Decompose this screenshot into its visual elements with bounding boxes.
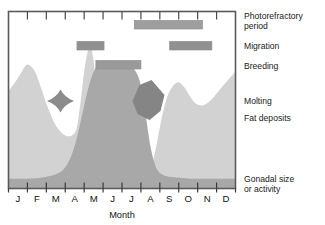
month-label-5: M (90, 193, 98, 204)
event-bar-migration-2 (170, 42, 212, 51)
month-label-2: F (34, 193, 40, 204)
month-label-4: A (72, 193, 79, 204)
month-label-10: O (184, 193, 191, 204)
month-label-9: S (166, 193, 172, 204)
month-label-8: A (147, 193, 154, 204)
month-label-1: J (16, 193, 21, 204)
legend-breeding: Breeding (244, 61, 279, 71)
event-bar-photorefractory-period (134, 21, 202, 30)
month-label-3: M (52, 193, 60, 204)
legend-photorefractory-line1: Photorefractory (244, 11, 303, 21)
legend-gonadal-line1: Gonadal size (244, 174, 294, 184)
month-label-7: J (129, 193, 134, 204)
event-bar-migration-1 (77, 42, 104, 51)
legend-gonadal-line2: or activity (244, 184, 281, 194)
chart-figure: JFMAMJJASOND Month Photorefractory perio… (0, 0, 325, 225)
x-axis-title: Month (109, 210, 135, 220)
event-bar-breeding (96, 61, 141, 70)
legend-fat-deposits: Fat deposits (244, 113, 291, 123)
month-label-11: N (204, 193, 211, 204)
legend-migration: Migration (244, 41, 280, 51)
month-label-12: D (223, 193, 230, 204)
legend-molting: Molting (244, 96, 272, 106)
month-label-6: J (110, 193, 115, 204)
legend-photorefractory-line2: period (244, 21, 268, 31)
chart-canvas: JFMAMJJASOND Month Photorefractory perio… (0, 0, 325, 225)
